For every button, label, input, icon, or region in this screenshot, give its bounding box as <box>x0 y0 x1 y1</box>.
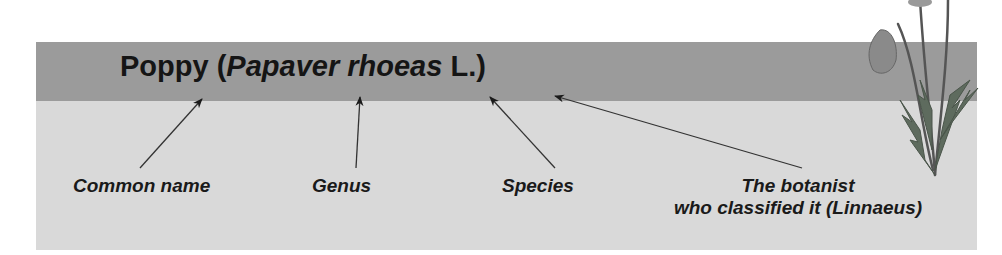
arrow-species <box>490 97 555 168</box>
label-common-name: Common name <box>73 175 210 197</box>
label-genus: Genus <box>312 175 371 197</box>
label-species: Species <box>502 175 574 197</box>
label-botanist-line2: who classified it (Linnaeus) <box>633 197 963 219</box>
arrow-genus <box>356 97 360 168</box>
arrow-botanist <box>555 96 802 168</box>
label-botanist-line1: The botanist <box>633 175 963 197</box>
label-botanist: The botanist who classified it (Linnaeus… <box>633 175 963 219</box>
arrow-common-name <box>140 99 202 168</box>
